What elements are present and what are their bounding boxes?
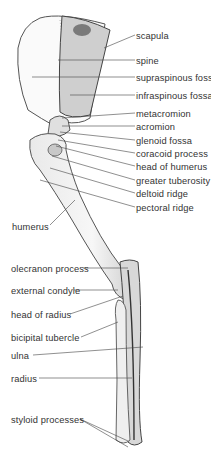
label-metacromion: metacromion bbox=[136, 109, 191, 119]
label-bicipital-tubercle: bicipital tubercle bbox=[11, 333, 79, 343]
label-deltoid-ridge: deltoid ridge bbox=[136, 189, 188, 199]
label-scapula: scapula bbox=[136, 31, 169, 41]
label-spine: spine bbox=[136, 56, 159, 66]
label-glenoid-fossa: glenoid fossa bbox=[136, 136, 192, 146]
label-head-of-humerus: head of humerus bbox=[136, 162, 207, 172]
scapula-shape bbox=[18, 16, 110, 128]
label-humerus: humerus bbox=[12, 222, 49, 232]
label-head-of-radius: head of radius bbox=[11, 310, 71, 320]
label-pectoral-ridge: pectoral ridge bbox=[136, 203, 194, 213]
label-acromion: acromion bbox=[136, 122, 175, 132]
label-greater-tuberosity: greater tuberosity bbox=[136, 176, 210, 186]
label-ulna: ulna bbox=[11, 351, 29, 361]
label-infraspinous-fossa: infraspinous fossa bbox=[136, 91, 211, 101]
label-coracoid-process: coracoid process bbox=[136, 149, 208, 159]
humerus-shape bbox=[30, 134, 134, 300]
label-external-condyle: external condyle bbox=[11, 286, 80, 296]
label-radius: radius bbox=[11, 374, 37, 384]
label-supraspinous-fossa: supraspinous fossa bbox=[136, 73, 211, 83]
label-styloid-processes: styloid processes bbox=[11, 415, 84, 425]
label-olecranon-process: olecranon process bbox=[11, 264, 89, 274]
